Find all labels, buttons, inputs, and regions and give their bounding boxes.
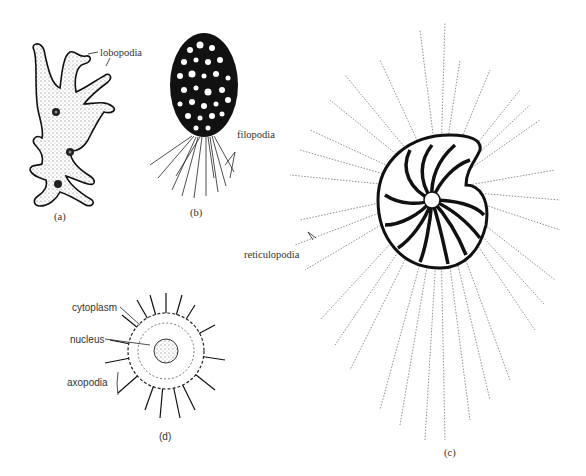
label-axopodia: axopodia [67,377,108,388]
foraminiferan-illustration [290,22,560,440]
figure-drawing [0,0,586,476]
caption-b: (b) [190,207,202,218]
label-cytoplasm: cytoplasm [72,302,117,313]
caption-d: (d) [159,431,171,442]
label-filopodia: filopodia [237,129,275,140]
amoeba-illustration [30,44,114,206]
caption-a: (a) [54,211,66,222]
label-nucleus: nucleus [70,334,104,345]
testate-amoeba-illustration [150,33,238,198]
caption-c: (c) [444,447,456,458]
label-reticulopodia: reticulopodia [244,249,299,260]
heliozoan-illustration [105,293,225,418]
label-lobopodia: lobopodia [100,47,142,58]
